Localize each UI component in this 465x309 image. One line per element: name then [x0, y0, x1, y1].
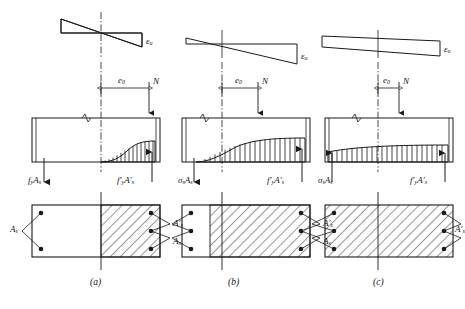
axial-force-label-a: N	[153, 77, 159, 86]
eccentricity-label-c: e0	[383, 76, 390, 85]
strain-label-b: εu	[301, 52, 308, 61]
cross-section-b	[172, 205, 320, 257]
section-label-right2-a: As	[173, 237, 181, 246]
cross-section-a	[22, 205, 170, 257]
section-label-right-b: A′s	[323, 219, 333, 228]
stress-block-a	[32, 114, 160, 182]
section-label-left-b: As	[323, 237, 331, 246]
compression-zone-c	[325, 205, 453, 257]
left-force-label-b: σsAs	[178, 176, 193, 185]
cross-section-c	[312, 205, 461, 257]
eccentricity-label-a: e0	[118, 76, 125, 85]
left-force-label-a: fyAs	[28, 176, 41, 185]
section-label-right-c: A′s	[455, 225, 465, 234]
strain-diagram-a	[61, 19, 142, 47]
axial-force-label-b: N	[262, 77, 268, 86]
eccentricity-dimension-b	[222, 82, 258, 113]
eccentricity-dimension-a	[101, 82, 149, 113]
caption-c: (c)	[373, 277, 384, 287]
stress-block-b	[182, 114, 310, 182]
eccentricity-label-b: e0	[235, 76, 242, 85]
compression-zone-b	[210, 205, 310, 257]
left-force-label-c: σsAs	[318, 176, 333, 185]
eccentricity-dimension-c	[378, 82, 399, 113]
stress-block-c	[325, 114, 453, 182]
right-force-label-c: f′yA′s	[410, 176, 427, 185]
section-label-left-a: As	[10, 225, 18, 234]
panel-a	[22, 12, 170, 270]
strain-label-a: εu	[146, 37, 153, 46]
section-label-right-a: A′s	[173, 219, 183, 228]
panel-c	[312, 30, 461, 270]
caption-a: (a)	[90, 277, 101, 287]
strain-diagram-b	[186, 38, 297, 64]
caption-b: (b)	[228, 277, 239, 287]
panel-b	[172, 30, 320, 270]
right-force-label-a: f′yA′s	[117, 176, 134, 185]
strain-label-c: εu	[444, 45, 451, 54]
right-force-label-b: f′yA′s	[267, 176, 284, 185]
strain-diagram-c	[322, 36, 440, 56]
axial-force-label-c: N	[403, 77, 409, 86]
